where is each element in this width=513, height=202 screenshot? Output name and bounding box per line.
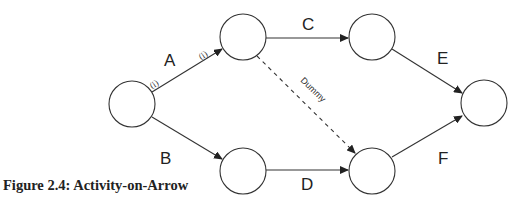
label-e: E	[437, 49, 448, 68]
arrow-e	[392, 49, 462, 93]
label-c: C	[302, 15, 314, 34]
activity-on-arrow-diagram: A B C D E F Dummy (i) (i)	[0, 0, 513, 202]
arrow-a	[152, 49, 222, 92]
label-d: D	[301, 175, 313, 194]
arrow-dummy	[257, 56, 355, 153]
node-1	[109, 81, 155, 127]
node-2	[220, 14, 266, 60]
label-a: A	[164, 51, 176, 70]
node-5	[349, 148, 395, 194]
label-f: F	[438, 149, 448, 168]
node-3	[220, 148, 266, 194]
node-6	[461, 80, 507, 126]
arrow-f	[392, 116, 462, 157]
node-4	[349, 14, 395, 60]
label-b: B	[160, 149, 171, 168]
figure-caption: Figure 2.4: Activity-on-Arrow	[3, 177, 188, 194]
head-mark-a: (i)	[197, 49, 210, 62]
label-dummy: Dummy	[299, 75, 329, 104]
